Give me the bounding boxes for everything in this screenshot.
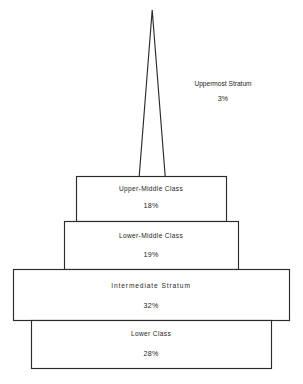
lower-middle-class-band	[65, 222, 239, 270]
upper-middle-class-percent: 18%	[76, 203, 226, 210]
lower-class-band	[32, 321, 272, 369]
lower-class-label: Lower Class	[31, 331, 271, 338]
uppermost-stratum-label: Uppermost Stratum	[168, 81, 278, 88]
lower-middle-class-percent: 19%	[64, 252, 238, 259]
uppermost-stratum-percent: 3%	[168, 96, 278, 103]
intermediate-stratum-percent: 32%	[13, 303, 289, 310]
lower-middle-class-label: Lower-Middle Class	[64, 233, 238, 240]
upper-middle-class-label: Upper-Middle Class	[76, 186, 226, 193]
intermediate-stratum-label: Intermediate Stratum	[13, 283, 289, 290]
intermediate-stratum-band	[14, 270, 290, 321]
uppermost-stratum-spire	[139, 10, 165, 177]
lower-class-percent: 28%	[31, 351, 271, 358]
upper-middle-class-band	[77, 177, 227, 222]
social-stratification-pyramid-diagram: Uppermost Stratum 3% Upper-Middle Class …	[0, 0, 303, 384]
